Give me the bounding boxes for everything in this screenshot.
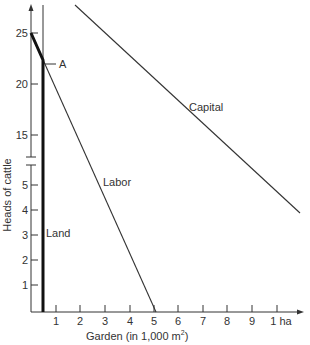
svg-text:7: 7: [200, 315, 206, 327]
svg-text:1 ha: 1 ha: [270, 315, 292, 327]
svg-text:1: 1: [53, 315, 59, 327]
svg-text:2: 2: [22, 254, 28, 266]
svg-text:9: 9: [249, 315, 255, 327]
labor-line: [31, 33, 156, 312]
svg-text:2: 2: [77, 315, 83, 327]
y-tick-labels: 1 2 3 4 5 15 20 25: [16, 27, 28, 291]
x-axis-arrow-icon: [297, 310, 304, 315]
axes: [26, 4, 304, 315]
svg-text:3: 3: [102, 315, 108, 327]
svg-text:3: 3: [22, 229, 28, 241]
svg-text:15: 15: [16, 129, 28, 141]
capital-label: Capital: [189, 101, 223, 113]
land-label: Land: [46, 227, 70, 239]
svg-text:5: 5: [22, 179, 28, 191]
chart: 1 2 3 4 5 15 20 25 1 2 3 4 5 6 7 8 9 1 h…: [0, 0, 310, 345]
svg-text:4: 4: [22, 204, 28, 216]
svg-text:25: 25: [16, 27, 28, 39]
svg-text:4: 4: [127, 315, 133, 327]
point-a-label: A: [59, 58, 67, 70]
svg-text:1: 1: [22, 279, 28, 291]
svg-text:6: 6: [175, 315, 181, 327]
y-ticks: [31, 33, 38, 285]
svg-text:8: 8: [224, 315, 230, 327]
x-tick-labels: 1 2 3 4 5 6 7 8 9 1 ha: [53, 315, 293, 327]
svg-text:5: 5: [151, 315, 157, 327]
labor-label: Labor: [103, 176, 131, 188]
x-axis-title: Garden (in 1,000 m2): [86, 329, 188, 342]
frontier-line: [31, 33, 43, 312]
x-ticks: [56, 305, 277, 312]
y-axis-title: Heads of cattle: [1, 158, 13, 231]
svg-text:20: 20: [16, 78, 28, 90]
y-axis-arrow-icon: [29, 4, 34, 11]
